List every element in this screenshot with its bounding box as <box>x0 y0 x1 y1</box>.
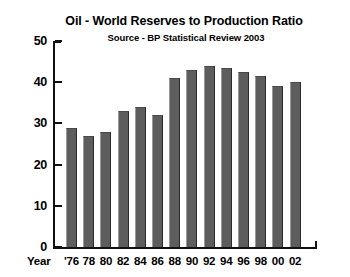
bar <box>290 82 301 247</box>
bar <box>83 136 94 247</box>
x-axis-tick-label: 00 <box>272 255 284 267</box>
x-axis-line <box>53 247 317 249</box>
x-axis-tick-label: 86 <box>151 255 163 267</box>
y-axis-tick-label: 10 <box>34 200 47 213</box>
x-axis-tick-label: 96 <box>237 255 249 267</box>
x-axis-tick-label: 82 <box>117 255 129 267</box>
x-axis-tick-label: 02 <box>289 255 301 267</box>
bar <box>152 115 163 247</box>
x-axis-tick-label: 90 <box>186 255 198 267</box>
x-axis-tick-label: 94 <box>220 255 232 267</box>
chart-figure: Oil - World Reserves to Production Ratio… <box>0 0 350 277</box>
y-axis-tick-label: 0 <box>40 241 47 254</box>
x-axis-name: Year <box>27 255 51 267</box>
y-axis-tick-label: 50 <box>34 35 47 48</box>
bar-series <box>55 41 317 247</box>
bar <box>66 128 77 247</box>
x-axis-tick-label: 78 <box>82 255 94 267</box>
bar <box>272 86 283 247</box>
x-axis-labels: Year '7678808284868890929496980002 <box>0 253 350 275</box>
x-axis-tick-label: 80 <box>100 255 112 267</box>
bar <box>186 70 197 247</box>
bar <box>238 72 249 247</box>
x-axis-tick-label: 92 <box>203 255 215 267</box>
x-axis-tick-label: '76 <box>64 255 79 267</box>
bar <box>118 111 129 247</box>
y-axis-tick-label: 30 <box>34 117 47 130</box>
bar <box>100 132 111 247</box>
bar <box>221 68 232 247</box>
x-axis-tick-label: 84 <box>134 255 146 267</box>
y-axis-tick-label: 20 <box>34 158 47 171</box>
bar <box>135 107 146 247</box>
bar <box>204 66 215 247</box>
bar <box>255 76 266 247</box>
y-axis-tick-label: 40 <box>34 76 47 89</box>
plot-area: 50403020100 <box>53 41 317 249</box>
chart-title: Oil - World Reserves to Production Ratio <box>0 14 350 28</box>
x-axis-tick-label: 88 <box>168 255 180 267</box>
x-axis-tick-label: 98 <box>254 255 266 267</box>
bar <box>169 78 180 247</box>
